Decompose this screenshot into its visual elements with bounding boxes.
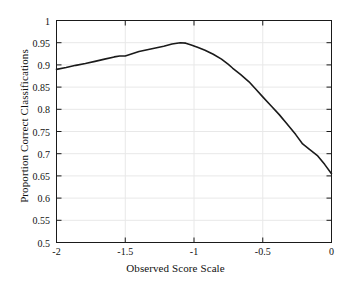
chart-figure: 0.50.550.60.650.70.750.80.850.90.951 -2-… xyxy=(0,0,351,292)
x-axis-title: Observed Score Scale xyxy=(0,262,351,274)
y-tick-label: 0.5 xyxy=(8,237,50,248)
x-tick-label: -2 xyxy=(52,246,60,257)
y-axis-title: Proportion Correct Classifications xyxy=(18,16,30,236)
x-tick-label: 0 xyxy=(329,246,334,257)
x-tick-label: -1 xyxy=(190,246,198,257)
x-tick-label: -0.5 xyxy=(255,246,271,257)
grid-lines xyxy=(57,21,332,243)
x-tick-label: -1.5 xyxy=(117,246,133,257)
